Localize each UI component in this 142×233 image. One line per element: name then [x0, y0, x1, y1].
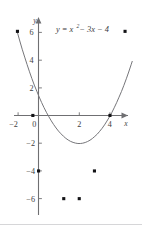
equation-rhs: − 3x − 4 — [79, 25, 109, 34]
data-point — [31, 114, 34, 117]
y-tick-label--4: −4 — [26, 167, 35, 176]
y-tick-label--2: −2 — [26, 139, 35, 148]
data-point — [108, 114, 111, 117]
y-axis-label: y — [32, 16, 37, 25]
bottom-divider — [0, 224, 142, 225]
data-point — [78, 197, 81, 200]
y-tick-label-2: 2 — [30, 84, 34, 93]
data-point — [37, 169, 40, 172]
y-tick-label--6: −6 — [26, 195, 35, 204]
data-point — [16, 30, 19, 33]
equation-annotation: y = x 2 − 3x − 4 — [55, 23, 109, 34]
data-point — [93, 169, 96, 172]
data-point — [124, 30, 127, 33]
x-tick-label-4: 4 — [108, 120, 112, 129]
graph-canvas: −2 0 2 4 6 4 2 −2 −4 −6 y x y = x 2 − 3x… — [0, 0, 142, 233]
data-point — [62, 197, 65, 200]
y-tick-label-4: 4 — [30, 56, 34, 65]
y-tick-label-6: 6 — [30, 28, 34, 37]
x-axis-arrowhead — [122, 113, 129, 119]
x-axis-label: x — [123, 119, 128, 128]
parabola-figure: −2 0 2 4 6 4 2 −2 −4 −6 y x y = x 2 − 3x… — [0, 0, 142, 233]
equation-lhs: y = x — [55, 25, 74, 34]
x-tick-label-2: 2 — [77, 120, 81, 129]
x-tick-label--2: −2 — [9, 120, 18, 129]
x-tick-label-0: 0 — [32, 120, 36, 129]
